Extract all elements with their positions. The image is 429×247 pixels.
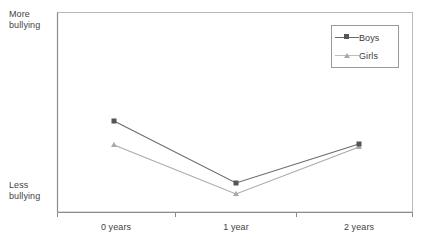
y-axis-low-label: Less bullying [9,180,40,202]
data-point-boys-2 [357,142,362,147]
series-line-boys [114,121,359,183]
data-point-boys-0 [112,119,117,124]
legend-item-girls: Girls [332,48,400,64]
y-axis-high-label: More bullying [9,9,40,31]
x-tick-label-1-year: 1 year [196,222,276,233]
legend-label-girls: Girls [359,51,378,62]
bullying-line-chart: More bullying Less bullying 0 years 1 ye… [0,0,429,247]
x-tick-label-0-years: 0 years [76,222,156,233]
legend-item-boys: Boys [332,30,400,46]
data-point-boys-1 [234,181,239,186]
legend-swatch-girls [335,51,359,61]
x-tick-label-2-years: 2 years [319,222,399,233]
series-line-girls [114,145,359,194]
legend-swatch-boys [335,33,359,43]
data-point-girls-0 [111,142,117,147]
chart-legend: Boys Girls [331,25,399,68]
legend-label-boys: Boys [359,33,379,44]
